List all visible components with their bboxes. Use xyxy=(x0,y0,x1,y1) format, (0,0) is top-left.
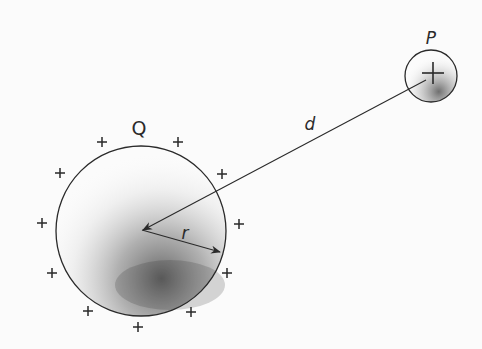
diagram-canvas: Q P d r xyxy=(0,0,482,349)
plus-icon xyxy=(222,268,232,278)
distance-arrow xyxy=(143,80,426,230)
point-charge-p xyxy=(405,50,457,102)
plus-icon xyxy=(217,169,227,179)
label-d: d xyxy=(305,116,316,133)
point-charge-body xyxy=(405,50,457,102)
sphere-shading xyxy=(115,260,225,310)
plus-icon xyxy=(173,137,183,147)
plus-icon xyxy=(55,168,65,178)
label-p: P xyxy=(426,30,436,47)
plus-icon xyxy=(83,306,93,316)
label-r: r xyxy=(182,225,189,242)
plus-icon xyxy=(97,137,107,147)
label-q: Q xyxy=(132,119,147,138)
plus-icon xyxy=(47,268,57,278)
plus-icon xyxy=(37,218,47,228)
plus-icon xyxy=(234,219,244,229)
plus-icon xyxy=(133,322,143,332)
diagram-svg xyxy=(0,0,482,349)
sphere-q xyxy=(56,146,226,316)
